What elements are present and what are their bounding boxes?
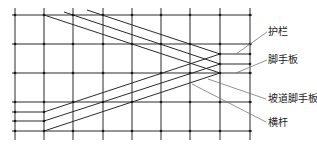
joint-node <box>102 72 105 75</box>
leader-line <box>208 79 266 99</box>
joint-node <box>72 72 75 75</box>
joint-node <box>102 101 105 104</box>
leader-line <box>236 60 267 73</box>
joint-node <box>249 63 252 66</box>
joint-node <box>249 14 252 17</box>
joint-node <box>131 14 134 17</box>
joint-node <box>249 53 252 56</box>
joint-node <box>131 72 134 75</box>
joint-node <box>160 72 163 75</box>
leader-line <box>192 84 266 122</box>
joint-node <box>249 72 252 75</box>
joint-node <box>72 43 75 46</box>
joint-node <box>189 43 192 46</box>
joint-node <box>43 111 46 114</box>
joint-node <box>249 101 252 104</box>
joint-node <box>189 14 192 17</box>
joint-node <box>102 14 105 17</box>
joint-node <box>131 43 134 46</box>
joint-node <box>219 63 222 66</box>
joint-node <box>219 43 222 46</box>
joint-node <box>219 101 222 104</box>
joint-node <box>219 130 222 133</box>
joint-node <box>43 130 46 133</box>
label-scaffold-board: 脚手板 <box>268 54 298 66</box>
leader-line <box>236 32 267 54</box>
joint-node <box>43 72 46 75</box>
joint-node <box>14 101 17 104</box>
joint-node <box>189 130 192 133</box>
joint-node <box>14 130 17 133</box>
label-guardrail: 护栏 <box>268 26 288 38</box>
joint-node <box>102 130 105 133</box>
descending-ramp-line <box>64 12 220 64</box>
joint-node <box>249 130 252 133</box>
joint-node <box>131 130 134 133</box>
joint-node <box>43 43 46 46</box>
joint-node <box>131 101 134 104</box>
joint-node <box>14 111 17 114</box>
joint-node <box>14 72 17 75</box>
joint-node <box>72 14 75 17</box>
joint-node <box>189 101 192 104</box>
joint-node <box>72 130 75 133</box>
joint-node <box>219 53 222 56</box>
joint-node <box>219 14 222 17</box>
leader-lines <box>192 32 267 122</box>
label-ramp-scaffold-board: 坡道脚手板 <box>268 93 317 105</box>
joint-node <box>102 43 105 46</box>
joint-node <box>189 72 192 75</box>
descending-ramp-line <box>87 10 220 54</box>
joint-node <box>72 101 75 104</box>
label-horizontal-bar: 横杆 <box>268 117 288 129</box>
joint-node <box>43 120 46 123</box>
joint-node <box>14 43 17 46</box>
joint-node <box>160 43 163 46</box>
joint-node <box>43 14 46 17</box>
joint-node <box>219 72 222 75</box>
joint-node <box>14 14 17 17</box>
joint-node <box>160 101 163 104</box>
joint-node <box>14 120 17 123</box>
joint-node <box>43 101 46 104</box>
joint-node <box>160 130 163 133</box>
joint-node <box>160 14 163 17</box>
